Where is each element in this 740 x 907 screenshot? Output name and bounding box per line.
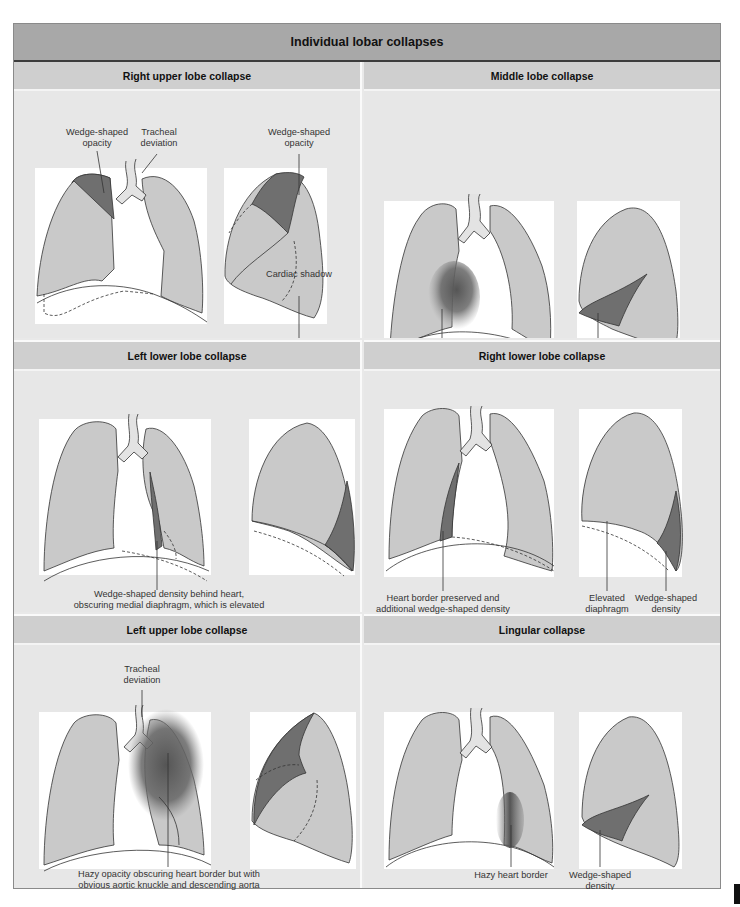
svg-text:Hazy opacity obscuring heart b: Hazy opacity obscuring heart border but … bbox=[78, 869, 260, 890]
panel-title: Left lower lobe collapse bbox=[14, 342, 360, 371]
middle-lobe-diagram: Hazy opacification withloss of right hea… bbox=[364, 91, 720, 338]
panel-middle-lobe: Middle lobe collapse bbox=[364, 62, 720, 338]
panel-right-lower-lobe: Right lower lobe collapse bbox=[364, 340, 720, 612]
panel-left-upper-lobe: Left upper lobe collapse bbox=[14, 614, 362, 888]
panel-right-upper-lobe: Right upper lobe collapse bbox=[14, 62, 362, 338]
left-lower-lobe-diagram: Wedge-shaped density behind heart,obscur… bbox=[14, 371, 362, 614]
panel-title: Right upper lobe collapse bbox=[14, 62, 360, 91]
panel-title: Lingular collapse bbox=[364, 616, 720, 645]
label-cardiac-shadow: Cardiac shadow bbox=[266, 269, 332, 279]
panel-lingular: Lingular collapse bbox=[364, 614, 720, 888]
label-wedge-shaped-opacity: Wedge-shapedopacity bbox=[66, 127, 128, 148]
figure-frame: Individual lobar collapses Right upper l… bbox=[13, 23, 721, 889]
lingular-diagram: Hazy heart border Wedge-shapeddensity bbox=[364, 645, 720, 890]
svg-text:Hazy heart border: Hazy heart border bbox=[474, 870, 548, 880]
panel-title: Middle lobe collapse bbox=[364, 62, 720, 91]
label-lateral-wedge-opacity: Wedge-shapedopacity bbox=[268, 127, 330, 148]
panel-left-lower-lobe: Left lower lobe collapse bbox=[14, 340, 362, 612]
svg-text:Elevateddiaphragm: Elevateddiaphragm bbox=[585, 593, 629, 614]
page-corner-mark bbox=[734, 884, 740, 904]
left-upper-lobe-diagram: Trachealdeviation Hazy opacity obscuring… bbox=[14, 645, 362, 890]
svg-text:Wedge-shaped density behind he: Wedge-shaped density behind heart,obscur… bbox=[74, 589, 265, 610]
panel-grid: Right upper lobe collapse bbox=[14, 62, 720, 888]
label-tracheal-deviation: Trachealdeviation bbox=[141, 127, 178, 148]
hazy-opacity-icon bbox=[128, 709, 204, 821]
figure-title: Individual lobar collapses bbox=[14, 24, 720, 62]
panel-title: Left upper lobe collapse bbox=[14, 616, 360, 645]
svg-text:Trachealdeviation: Trachealdeviation bbox=[124, 664, 161, 685]
hazy-opacification-icon bbox=[428, 261, 480, 333]
panel-title: Right lower lobe collapse bbox=[364, 342, 720, 371]
svg-text:Wedge-shapeddensity: Wedge-shapeddensity bbox=[569, 870, 631, 890]
hazy-heart-border-icon bbox=[496, 792, 524, 848]
right-lower-lobe-diagram: Heart border preserved andadditional wed… bbox=[364, 371, 720, 614]
right-upper-lobe-diagram: Wedge-shapedopacity Trachealdeviation We… bbox=[14, 91, 362, 338]
svg-text:Heart border preserved andaddi: Heart border preserved andadditional wed… bbox=[376, 593, 510, 614]
svg-text:Wedge-shapeddensity: Wedge-shapeddensity bbox=[635, 593, 697, 614]
